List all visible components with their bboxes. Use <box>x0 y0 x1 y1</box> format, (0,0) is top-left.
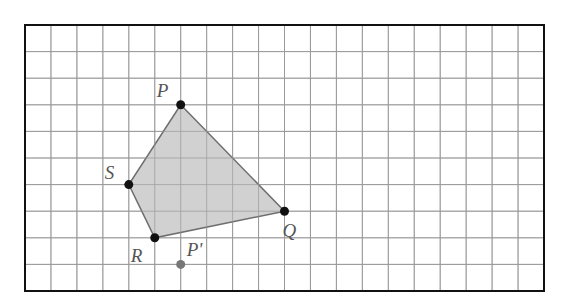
point-q-label: Q <box>283 220 297 241</box>
grid-lines-overlay <box>25 25 544 291</box>
point-r-dot <box>150 233 159 242</box>
point-p-dot <box>176 100 185 109</box>
point-s-label: S <box>105 162 115 183</box>
point-p-label: P <box>156 80 169 101</box>
point-s-dot <box>124 180 133 189</box>
point-p-prime-label: P' <box>186 239 204 260</box>
point-p-prime-dot <box>176 260 185 269</box>
point-r-label: R <box>130 245 143 266</box>
point-q-dot <box>280 207 289 216</box>
grid-diagram: PQRSP' <box>0 0 566 305</box>
